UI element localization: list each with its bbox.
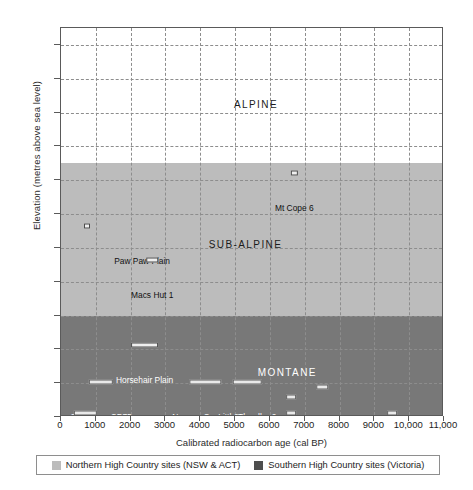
x-axis-tick-mark bbox=[304, 416, 305, 421]
data-marker[interactable] bbox=[233, 380, 262, 385]
zone-label-montane: MONTANE bbox=[258, 367, 317, 378]
y-axis-tick-mark bbox=[54, 213, 60, 214]
y-axis-tick-mark bbox=[54, 44, 60, 45]
x-axis-tick-mark bbox=[269, 416, 270, 421]
x-axis-tick-mark bbox=[408, 416, 409, 421]
x-axis-tick-mark bbox=[199, 416, 200, 421]
data-marker[interactable] bbox=[190, 380, 221, 385]
y-axis-title: Elevation (metres above sea level) bbox=[31, 26, 42, 286]
y-axis-tick-mark bbox=[54, 281, 60, 282]
x-axis-tick-mark bbox=[373, 416, 374, 421]
data-marker[interactable] bbox=[286, 394, 296, 399]
plot-area: ALPINESUB-ALPINEMONTANE Mt Cope 6Paw Paw… bbox=[60, 27, 443, 416]
data-marker[interactable] bbox=[387, 410, 397, 415]
chart-legend: Northern High Country sites (NSW & ACT)S… bbox=[36, 455, 440, 475]
gridline-horizontal bbox=[61, 79, 442, 80]
y-axis-tick-mark bbox=[54, 382, 60, 383]
x-axis-title: Calibrated radiocarbon age (cal BP) bbox=[60, 437, 443, 448]
y-axis-tick-mark bbox=[54, 348, 60, 349]
gridline-horizontal bbox=[61, 146, 442, 147]
gridline-horizontal bbox=[61, 45, 442, 46]
data-marker[interactable] bbox=[84, 223, 90, 228]
data-marker-label: Mt Cope 6 bbox=[275, 203, 314, 213]
legend-swatch-icon bbox=[254, 461, 263, 470]
y-axis-tick-mark bbox=[54, 247, 60, 248]
x-axis-tick-mark bbox=[234, 416, 235, 421]
y-axis-tick-mark bbox=[54, 179, 60, 180]
data-marker[interactable] bbox=[131, 343, 159, 348]
data-marker[interactable] bbox=[89, 380, 113, 385]
y-axis-tick-mark bbox=[54, 78, 60, 79]
legend-swatch-icon bbox=[52, 461, 61, 470]
data-marker[interactable] bbox=[74, 410, 96, 415]
x-axis-tick-mark bbox=[130, 416, 131, 421]
radiocarbon-elevation-chart: Elevation (metres above sea level) ALPIN… bbox=[0, 0, 473, 490]
legend-label: Northern High Country sites (NSW & ACT) bbox=[66, 460, 241, 470]
y-axis-tick-mark bbox=[54, 112, 60, 113]
zone-label-alpine: ALPINE bbox=[234, 99, 278, 110]
x-axis-tick-mark bbox=[443, 416, 444, 421]
legend-item: Southern High Country sites (Victoria) bbox=[254, 460, 424, 470]
data-marker[interactable] bbox=[286, 410, 296, 415]
data-marker-label: Macs Hut 1 bbox=[131, 290, 173, 300]
legend-label: Southern High Country sites (Victoria) bbox=[268, 460, 424, 470]
x-axis-tick-mark bbox=[339, 416, 340, 421]
y-axis-tick-mark bbox=[54, 315, 60, 316]
data-marker[interactable] bbox=[291, 170, 297, 175]
data-marker[interactable] bbox=[316, 385, 327, 390]
data-marker[interactable] bbox=[146, 257, 157, 262]
x-axis-tick-mark bbox=[95, 416, 96, 421]
x-axis-tick-mark bbox=[164, 416, 165, 421]
data-marker-label: Paw Paw Plain bbox=[114, 256, 170, 266]
gridline-horizontal bbox=[61, 113, 442, 114]
zone-label-sub-alpine: SUB-ALPINE bbox=[209, 239, 282, 250]
data-marker-label: Little Thredbo 2 bbox=[218, 412, 276, 416]
y-axis-tick-mark bbox=[54, 145, 60, 146]
legend-item: Northern High Country sites (NSW & ACT) bbox=[52, 460, 241, 470]
data-marker-label: Horsehair Plain bbox=[116, 375, 173, 385]
x-axis-tick-mark bbox=[60, 416, 61, 421]
band-montane bbox=[61, 316, 442, 416]
